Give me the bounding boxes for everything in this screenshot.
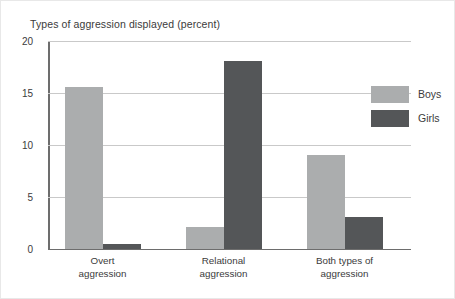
bar-boys-1 (186, 227, 224, 249)
y-axis-tick-label: 20 (5, 36, 33, 47)
legend: Boys Girls (371, 84, 441, 132)
bar-boys-2 (307, 155, 345, 249)
category-label-line: aggression (285, 268, 405, 281)
y-axis-tick-label: 10 (5, 140, 33, 151)
legend-label: Girls (418, 112, 440, 124)
category-label-line: Both types of (285, 255, 405, 268)
category-label-line: Relational (164, 255, 284, 268)
chart-figure: Types of aggression displayed (percent) … (0, 0, 455, 299)
legend-swatch-icon (371, 86, 409, 103)
bar-boys-0 (65, 87, 103, 249)
x-axis-line (48, 249, 411, 251)
legend-swatch-icon (371, 110, 409, 127)
chart-title: Types of aggression displayed (percent) (30, 18, 220, 30)
category-label-line: Overt (43, 255, 163, 268)
y-axis-tick-label: 5 (5, 192, 33, 203)
x-axis-category-label: Relationalaggression (164, 255, 284, 280)
category-label-line: aggression (164, 268, 284, 281)
gridline (48, 41, 411, 42)
plot-area: Boys Girls (48, 41, 411, 249)
category-label-line: aggression (43, 268, 163, 281)
x-axis-category-label: Both types ofaggression (285, 255, 405, 280)
bar-girls-2 (345, 217, 383, 249)
bar-girls-1 (224, 61, 262, 249)
y-axis-tick-label: 0 (5, 244, 33, 255)
x-axis-category-label: Overtaggression (43, 255, 163, 280)
legend-item-boys[interactable]: Boys (371, 84, 441, 104)
y-axis-tick-label: 15 (5, 88, 33, 99)
legend-item-girls[interactable]: Girls (371, 108, 441, 128)
legend-label: Boys (418, 88, 441, 100)
